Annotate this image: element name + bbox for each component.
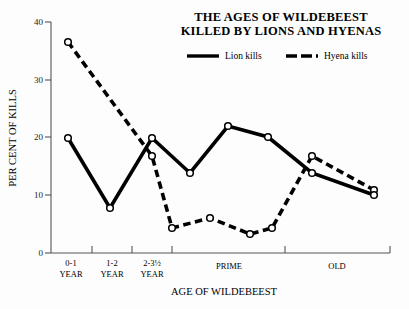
- lion-point: [187, 170, 194, 177]
- x-category-1-line1: 1-2: [106, 258, 117, 268]
- x-category-2-line2: YEAR: [140, 269, 163, 279]
- chart-title-line1: THE AGES OF WILDEBEEST: [194, 10, 368, 24]
- lion-point: [65, 135, 72, 142]
- x-category-1-line2: YEAR: [100, 269, 123, 279]
- y-tick-label-40: 40: [34, 17, 44, 27]
- x-category-2-line1: 2-3½: [143, 258, 161, 268]
- y-axis-title: PER CENT OF KILLS: [7, 89, 18, 187]
- wildebeest-kills-line-chart: THE AGES OF WILDEBEEST KILLED BY LIONS A…: [0, 0, 409, 309]
- y-tick-label-20: 20: [34, 132, 44, 142]
- hyena-point: [309, 153, 316, 160]
- legend-label-hyena: Hyena kills: [324, 51, 368, 61]
- x-category-3-line1: PRIME: [216, 261, 242, 271]
- hyena-point: [65, 39, 72, 46]
- lion-point: [225, 123, 232, 130]
- lion-point: [107, 205, 114, 212]
- chart-title-line2: KILLED BY LIONS AND HYENAS: [181, 24, 382, 38]
- lion-point: [371, 192, 378, 199]
- chart-container: THE AGES OF WILDEBEEST KILLED BY LIONS A…: [0, 0, 409, 309]
- hyena-point: [169, 225, 176, 232]
- x-category-0-line1: 0-1: [65, 258, 76, 268]
- x-category-4-line1: OLD: [328, 261, 345, 271]
- hyena-point: [247, 231, 254, 238]
- lion-point: [309, 170, 316, 177]
- y-tick-label-10: 10: [34, 190, 44, 200]
- x-axis-title: AGE OF WILDEBEEST: [171, 286, 278, 297]
- hyena-point: [207, 215, 214, 222]
- legend-label-lion: Lion kills: [225, 51, 262, 61]
- hyena-point: [269, 225, 276, 232]
- y-tick-label-0: 0: [39, 248, 44, 258]
- hyena-point: [149, 153, 156, 160]
- x-category-0-line2: YEAR: [59, 269, 82, 279]
- y-tick-label-30: 30: [34, 75, 44, 85]
- lion-point: [265, 134, 272, 141]
- lion-point: [149, 135, 156, 142]
